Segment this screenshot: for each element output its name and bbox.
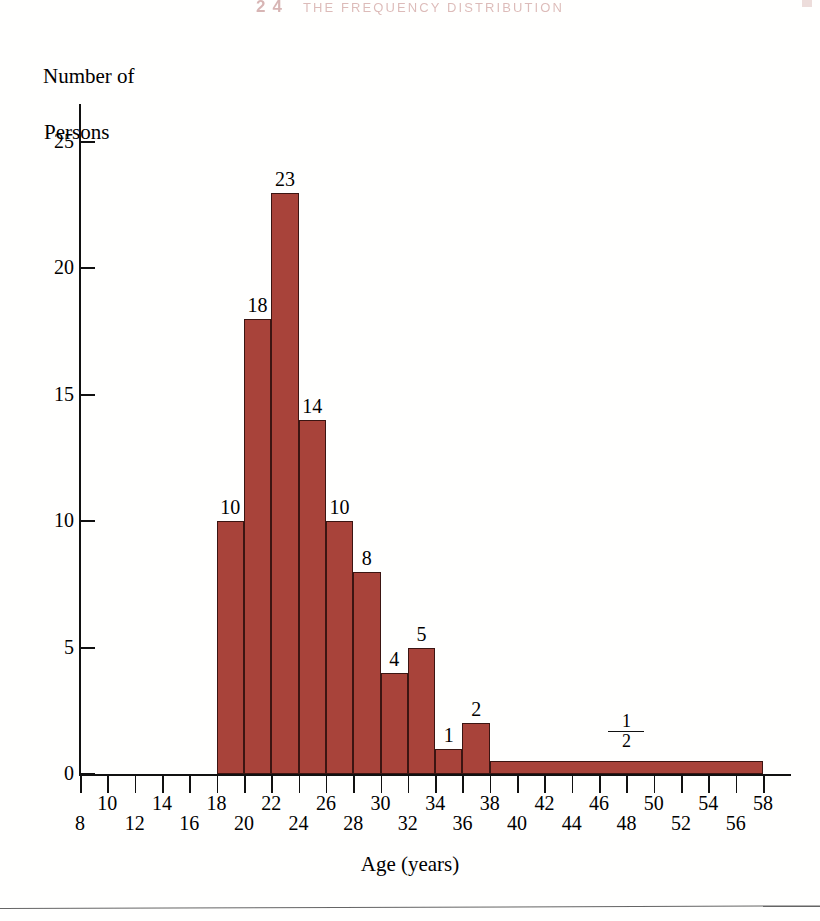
x-tick-label-10: 10	[87, 792, 127, 814]
x-tick-54	[708, 776, 710, 793]
y-tick-label-0: 0	[30, 763, 74, 783]
x-tick-14	[162, 776, 164, 793]
textbook-page: 24 THE FREQUENCY DISTRIBUTION Number of …	[0, 0, 820, 921]
x-tick-label-28: 28	[333, 812, 373, 834]
x-tick-label-46: 46	[579, 792, 619, 814]
y-tick-20	[81, 267, 95, 269]
x-tick-18	[217, 776, 219, 793]
x-tick-48	[626, 776, 628, 793]
bar-value-label: 10	[210, 497, 250, 517]
x-tick-label-52: 52	[661, 812, 701, 834]
x-tick-34	[435, 776, 437, 793]
y-tick-label-20: 20	[30, 257, 74, 277]
x-tick-label-38: 38	[470, 792, 510, 814]
histogram-bar	[299, 420, 326, 774]
x-axis-title: Age (years)	[0, 852, 820, 877]
x-tick-50	[654, 776, 656, 793]
y-tick-label-10: 10	[30, 510, 74, 530]
y-tick-label-25: 25	[30, 131, 74, 151]
x-tick-label-18: 18	[197, 792, 237, 814]
histogram-plot: 0510152025 81012141618202224262830323436…	[0, 0, 820, 880]
x-tick-label-26: 26	[306, 792, 346, 814]
bar-value-label: 1	[429, 725, 469, 745]
x-tick-44	[572, 776, 574, 793]
x-tick-42	[544, 776, 546, 793]
histogram-bar	[435, 749, 462, 774]
x-tick-label-58: 58	[743, 792, 783, 814]
x-tick-16	[189, 776, 191, 793]
x-tick-label-56: 56	[716, 812, 756, 834]
x-tick-58	[763, 776, 765, 793]
x-tick-label-54: 54	[688, 792, 728, 814]
bar-value-label: 23	[265, 169, 305, 189]
fraction-numerator: 1	[606, 713, 646, 730]
x-tick-32	[408, 776, 410, 793]
x-tick-label-20: 20	[224, 812, 264, 834]
y-tick-10	[81, 520, 95, 522]
y-axis-line	[79, 104, 81, 776]
bar-value-label: 12	[606, 713, 646, 750]
y-tick-25	[81, 141, 95, 143]
x-tick-56	[736, 776, 738, 793]
histogram-bar	[217, 521, 244, 774]
x-tick-label-12: 12	[115, 812, 155, 834]
x-tick-12	[135, 776, 137, 793]
x-tick-label-8: 8	[60, 812, 100, 834]
bar-value-label: 5	[402, 624, 442, 644]
x-tick-label-32: 32	[388, 812, 428, 834]
x-tick-label-48: 48	[606, 812, 646, 834]
y-tick-0	[81, 773, 95, 775]
x-tick-40	[517, 776, 519, 793]
x-tick-52	[681, 776, 683, 793]
x-tick-38	[490, 776, 492, 793]
x-tick-26	[326, 776, 328, 793]
x-tick-22	[271, 776, 273, 793]
x-tick-24	[299, 776, 301, 793]
x-tick-label-22: 22	[251, 792, 291, 814]
x-tick-label-40: 40	[497, 812, 537, 834]
bar-value-label: 10	[320, 497, 360, 517]
y-tick-5	[81, 647, 95, 649]
x-tick-label-16: 16	[169, 812, 209, 834]
bar-value-label: 18	[238, 295, 278, 315]
histogram-bar	[490, 761, 763, 774]
x-tick-label-42: 42	[524, 792, 564, 814]
x-tick-36	[462, 776, 464, 793]
histogram-bar	[271, 193, 298, 774]
x-tick-label-24: 24	[279, 812, 319, 834]
x-tick-label-50: 50	[634, 792, 674, 814]
histogram-bar	[381, 673, 408, 774]
fraction-denominator: 2	[606, 733, 646, 750]
x-tick-label-44: 44	[552, 812, 592, 834]
x-tick-10	[107, 776, 109, 793]
x-tick-28	[353, 776, 355, 793]
x-tick-label-14: 14	[142, 792, 182, 814]
y-tick-label-15: 15	[30, 384, 74, 404]
x-tick-20	[244, 776, 246, 793]
bar-value-label: 8	[347, 548, 387, 568]
y-tick-15	[81, 394, 95, 396]
bar-value-label: 2	[456, 699, 496, 719]
bar-value-label: 4	[374, 649, 414, 669]
page-footer-rule	[0, 905, 820, 909]
x-tick-30	[381, 776, 383, 793]
y-tick-label-5: 5	[30, 637, 74, 657]
x-tick-label-34: 34	[415, 792, 455, 814]
x-tick-label-30: 30	[361, 792, 401, 814]
x-tick-46	[599, 776, 601, 793]
histogram-bar	[244, 319, 271, 774]
x-tick-label-36: 36	[442, 812, 482, 834]
bar-value-label: 14	[292, 396, 332, 416]
x-tick-8	[80, 776, 82, 793]
histogram-bar	[353, 572, 380, 774]
